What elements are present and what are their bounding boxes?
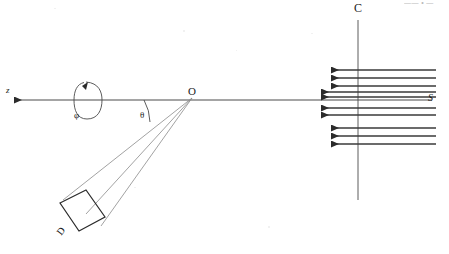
origin-label-o: O — [188, 86, 196, 97]
scattered-rays — [63, 98, 192, 226]
theta-angle-arc — [144, 100, 150, 122]
scan-speck — [54, 8, 56, 9]
scan-speck — [236, 50, 237, 51]
scattering-geometry-figure: z C S O θ φ D —— • — — [0, 0, 449, 254]
scan-speck — [183, 30, 185, 32]
scan-speck — [268, 226, 270, 228]
axis-label-z: z — [6, 86, 10, 95]
scattered-ray-1 — [63, 98, 192, 200]
source-label-s: S — [428, 93, 433, 103]
scan-speck — [134, 187, 136, 188]
incident-beam-arrows — [321, 70, 436, 144]
scan-edge-artifact: —— • — — [404, 0, 434, 5]
collimator-label-c: C — [354, 2, 362, 14]
scattering-angle-label-theta: θ — [140, 111, 144, 120]
detector-box — [60, 190, 105, 231]
rotation-angle-label-phi: φ — [74, 111, 79, 120]
scattered-ray-2 — [86, 98, 192, 214]
scan-speck — [311, 33, 313, 34]
diagram-canvas — [0, 0, 449, 254]
scattered-ray-3 — [101, 98, 192, 226]
